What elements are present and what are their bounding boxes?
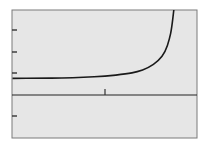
function-plot [0, 0, 212, 142]
plot-area [12, 10, 197, 138]
